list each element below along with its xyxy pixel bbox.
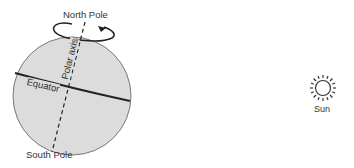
sun-label: Sun bbox=[314, 105, 330, 114]
south-pole-label: South Pole bbox=[26, 150, 72, 160]
north-pole-label: North Pole bbox=[63, 10, 108, 20]
sun-icon bbox=[310, 75, 336, 101]
